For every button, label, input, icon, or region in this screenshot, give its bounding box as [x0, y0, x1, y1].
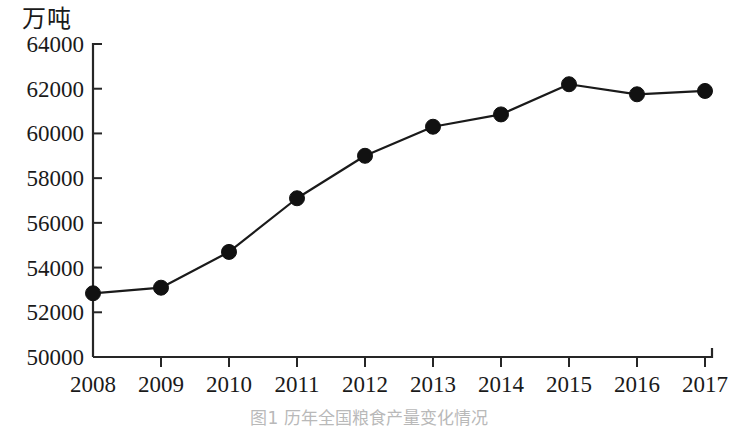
x-tick-label: 2009 [138, 372, 184, 397]
x-axis-ticks [161, 357, 705, 367]
data-point [630, 87, 645, 102]
y-axis-tick-labels: 5000052000540005600058000600006200064000 [27, 32, 85, 370]
x-tick-label: 2010 [206, 372, 252, 397]
data-point [290, 191, 305, 206]
y-axis-unit-label: 万吨 [22, 0, 72, 34]
data-series-line [93, 84, 705, 293]
data-point [494, 107, 509, 122]
x-tick-label: 2017 [682, 372, 728, 397]
y-tick-label: 62000 [27, 77, 85, 102]
data-point [358, 148, 373, 163]
data-point [426, 119, 441, 134]
y-tick-label: 50000 [27, 345, 85, 370]
y-tick-label: 64000 [27, 32, 85, 57]
x-axis [93, 348, 712, 357]
y-tick-label: 54000 [27, 256, 85, 281]
y-tick-label: 60000 [27, 121, 85, 146]
x-tick-label: 2012 [342, 372, 388, 397]
x-tick-label: 2015 [546, 372, 592, 397]
y-tick-label: 58000 [27, 166, 85, 191]
data-point [86, 286, 101, 301]
data-point [154, 280, 169, 295]
data-point [562, 77, 577, 92]
figure-caption: 图1 历年全国粮食产量变化情况 [0, 404, 738, 429]
x-tick-label: 2014 [478, 372, 525, 397]
data-point [698, 83, 713, 98]
y-axis-ticks [93, 89, 102, 313]
data-point-markers [86, 77, 713, 301]
y-tick-label: 56000 [27, 211, 85, 236]
x-axis-tick-labels: 2008200920102011201220132014201520162017 [70, 372, 728, 397]
x-tick-label: 2016 [614, 372, 660, 397]
y-axis [93, 44, 102, 357]
x-tick-label: 2011 [274, 372, 319, 397]
x-tick-label: 2013 [410, 372, 456, 397]
data-point [222, 244, 237, 259]
y-tick-label: 52000 [27, 300, 85, 325]
x-tick-label: 2008 [70, 372, 116, 397]
